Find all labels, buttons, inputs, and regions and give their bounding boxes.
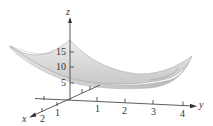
y-arrow-icon — [190, 104, 197, 108]
x-tick-1: 1 — [55, 108, 60, 118]
x-tick-2: 2 — [40, 114, 45, 124]
y-tick-2: 2 — [122, 106, 127, 116]
x-arrow-icon — [29, 113, 37, 118]
surface-figure: z y x 15 10 5 1 2 3 4 1 2 — [0, 0, 213, 126]
y-tick-4: 4 — [180, 109, 185, 119]
y-tick-1: 1 — [95, 104, 100, 114]
z-tick-5: 5 — [61, 78, 66, 88]
surface-top — [10, 40, 192, 84]
z-tick-15: 15 — [56, 47, 66, 57]
x-axis-label: x — [22, 114, 26, 124]
y-axis — [35, 99, 193, 107]
z-axis-label: z — [66, 7, 70, 17]
z-arrow-icon — [68, 17, 72, 23]
z-tick-10: 10 — [56, 62, 66, 72]
y-axis-label: y — [199, 100, 203, 110]
y-tick-3: 3 — [151, 107, 156, 117]
